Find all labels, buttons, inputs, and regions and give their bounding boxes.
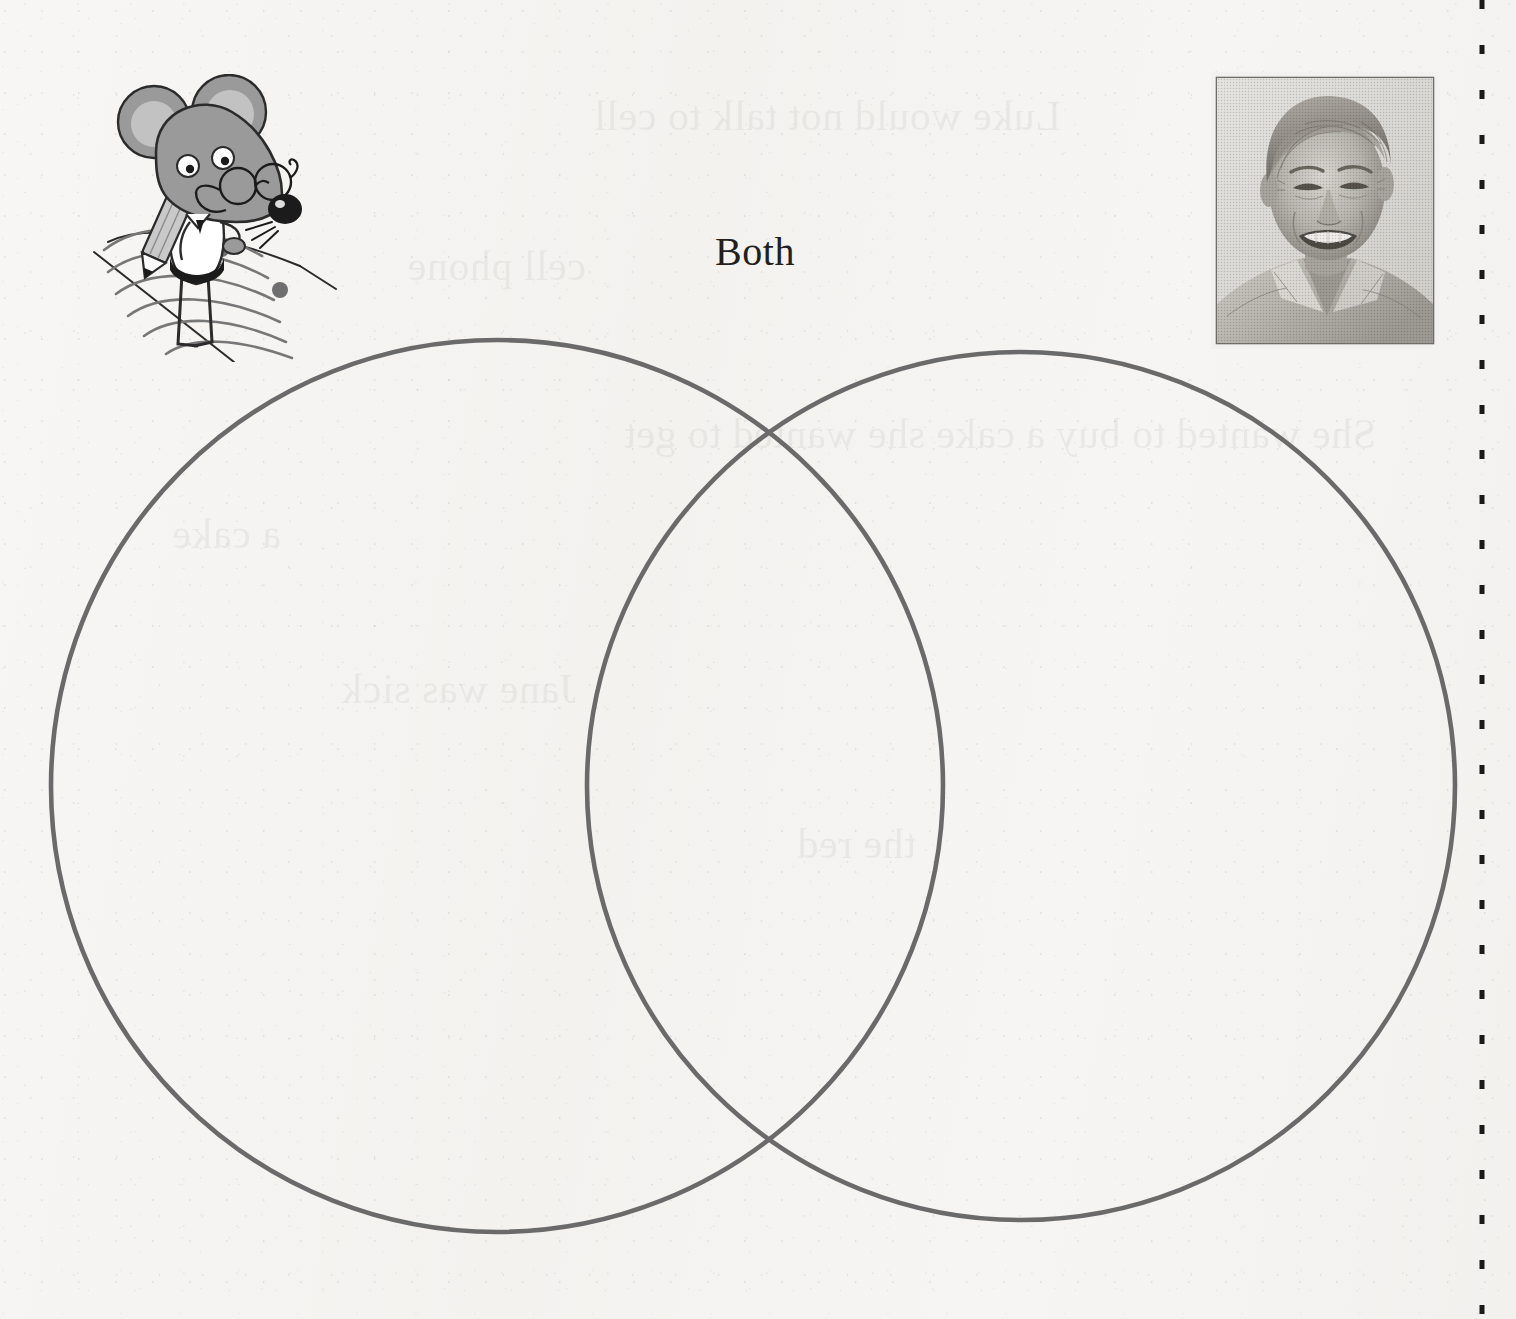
dashed-cut-line [1479,0,1485,1319]
author-portrait-photo [1211,72,1439,349]
cartoon-mouse-writing-icon [86,74,338,362]
show-through-line: the red [797,820,916,868]
show-through-line: Jane was sick [341,665,576,713]
venn-circle-right [587,352,1455,1220]
venn-circle-left [51,340,943,1232]
worksheet-page: Luke would not talk to cell cell phone S… [0,0,1516,1319]
both-label-text: Both [715,228,795,275]
show-through-line: She wanted to buy a cake she wanted to g… [624,410,1376,458]
show-through-line: a cake [172,510,281,558]
show-through-line: Luke would not talk to cell [594,92,1061,140]
